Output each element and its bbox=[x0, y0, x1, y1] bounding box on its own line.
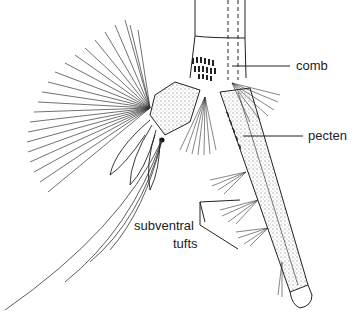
dorsal-brush bbox=[27, 20, 150, 192]
comb-scales bbox=[192, 57, 216, 81]
subventral-label: subventral bbox=[134, 219, 194, 232]
tufts-label: tufts bbox=[173, 237, 198, 250]
siphon bbox=[220, 88, 312, 308]
anal-papillae bbox=[110, 120, 160, 190]
pecten-label: pecten bbox=[308, 129, 347, 142]
comb-label: comb bbox=[296, 59, 328, 72]
larva-diagram bbox=[0, 0, 364, 322]
